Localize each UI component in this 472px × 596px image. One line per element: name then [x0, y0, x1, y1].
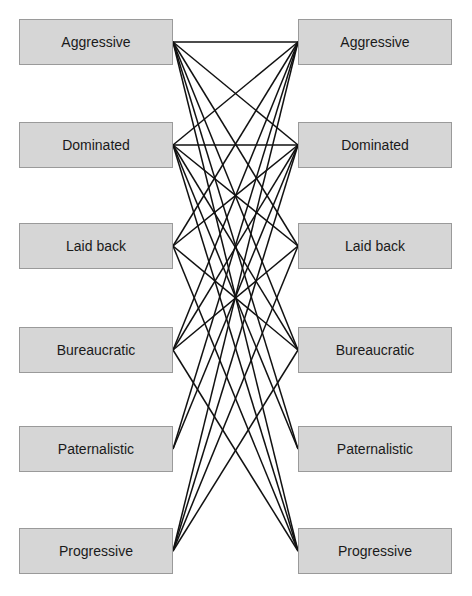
- right-box-dominated: Dominated: [298, 122, 452, 168]
- right-box-label: Aggressive: [340, 34, 409, 50]
- left-box-label: Dominated: [62, 137, 130, 153]
- style-matching-diagram: Aggressive Dominated Laid back Bureaucra…: [0, 0, 472, 596]
- left-box-label: Bureaucratic: [57, 342, 136, 358]
- right-box-aggressive: Aggressive: [298, 19, 452, 65]
- left-box-paternalistic: Paternalistic: [19, 426, 173, 472]
- left-box-laid-back: Laid back: [19, 223, 173, 269]
- right-box-label: Bureaucratic: [336, 342, 415, 358]
- connection-lines: [0, 0, 472, 596]
- right-box-label: Laid back: [345, 238, 405, 254]
- right-box-bureaucratic: Bureaucratic: [298, 327, 452, 373]
- left-box-progressive: Progressive: [19, 528, 173, 574]
- left-box-bureaucratic: Bureaucratic: [19, 327, 173, 373]
- left-box-aggressive: Aggressive: [19, 19, 173, 65]
- left-box-label: Laid back: [66, 238, 126, 254]
- right-box-label: Progressive: [338, 543, 412, 559]
- right-box-laid-back: Laid back: [298, 223, 452, 269]
- left-box-label: Paternalistic: [58, 441, 134, 457]
- right-box-progressive: Progressive: [298, 528, 452, 574]
- left-box-label: Aggressive: [61, 34, 130, 50]
- left-box-dominated: Dominated: [19, 122, 173, 168]
- left-box-label: Progressive: [59, 543, 133, 559]
- right-box-label: Paternalistic: [337, 441, 413, 457]
- right-box-label: Dominated: [341, 137, 409, 153]
- right-box-paternalistic: Paternalistic: [298, 426, 452, 472]
